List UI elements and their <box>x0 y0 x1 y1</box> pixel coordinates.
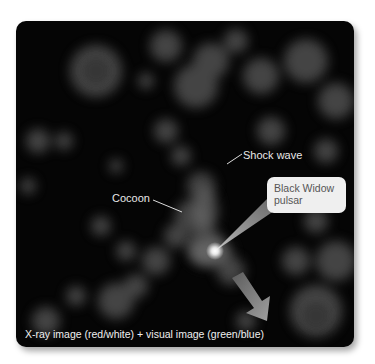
shock-wave-leader-line <box>227 154 242 164</box>
pulsar-label-line1: Black Widow <box>274 182 339 194</box>
pulsar-label-line2: pulsar <box>274 194 339 206</box>
shock-wave-label: Shock wave <box>243 150 302 161</box>
pulsar-image-panel: Shock wave Cocoon Black Widow pulsar X-r… <box>16 21 354 347</box>
pulsar-callout: Black Widow pulsar <box>267 177 346 213</box>
image-caption: X-ray image (red/white) + visual image (… <box>25 329 264 340</box>
motion-arrow-icon <box>232 272 270 321</box>
cocoon-label: Cocoon <box>112 193 150 204</box>
cocoon-leader-line <box>153 200 182 212</box>
